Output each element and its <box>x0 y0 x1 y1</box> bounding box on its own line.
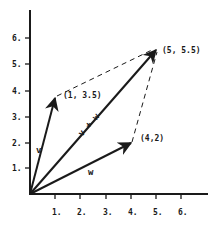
x-tick-label: 4. <box>128 208 138 217</box>
vector-addition-diagram: 1. 2. 3. 4. 5. 6. 1. 2. 3. 4. 5. 6. v w … <box>0 0 218 226</box>
x-tick-label: 5. <box>153 208 163 217</box>
dashed-edge-w-to-sum <box>132 52 157 142</box>
y-tick-label: 6. <box>12 34 22 43</box>
point-label-sum-tip: (5, 5.5) <box>162 46 201 55</box>
point-label-w-tip: (4,2) <box>140 134 164 143</box>
y-tick-label: 1. <box>12 164 22 173</box>
y-tick-labels: 1. 2. 3. 4. 5. 6. <box>12 34 22 173</box>
x-tick-label: 6. <box>178 208 188 217</box>
y-tick-label: 2. <box>12 139 22 148</box>
x-tick-label: 3. <box>103 208 113 217</box>
axes <box>29 10 208 195</box>
x-tick-label: 1. <box>52 208 62 217</box>
point-label-v-tip: (1, 3.5) <box>63 91 102 100</box>
vector-v-plus-w-label: v + w <box>76 111 102 138</box>
x-tick-label: 2. <box>77 208 87 217</box>
vector-w <box>30 143 131 194</box>
x-tick-labels: 1. 2. 3. 4. 5. 6. <box>52 208 188 217</box>
dashed-edge-v-to-sum <box>57 49 154 96</box>
y-tick-label: 3. <box>12 113 22 122</box>
vector-v-label: v <box>36 145 42 155</box>
y-tick-label: 5. <box>12 60 22 69</box>
vector-w-label: w <box>88 167 94 177</box>
y-tick-label: 4. <box>12 87 22 96</box>
